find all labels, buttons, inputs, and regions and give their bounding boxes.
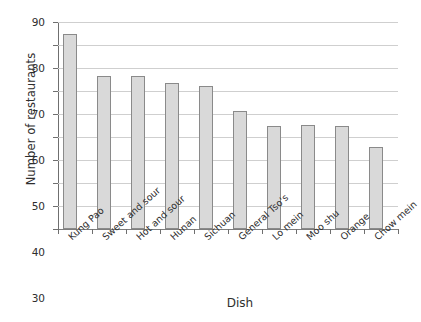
y-axis-tick-label: 80 bbox=[32, 62, 45, 74]
gridline bbox=[58, 68, 398, 69]
bar bbox=[301, 125, 315, 229]
bar bbox=[233, 111, 247, 229]
x-axis-tick bbox=[262, 229, 263, 234]
x-axis-tick bbox=[194, 229, 195, 234]
y-axis-tick: 90 bbox=[53, 22, 58, 23]
y-axis-tick-label: 70 bbox=[32, 108, 45, 120]
y-axis-tick: 10 bbox=[53, 206, 58, 207]
plot-area: 0102030405060708090 bbox=[58, 22, 398, 229]
y-axis-tick: 60 bbox=[53, 91, 58, 92]
x-axis-tick bbox=[398, 229, 399, 234]
y-axis-tick: 40 bbox=[53, 137, 58, 138]
x-axis-tick bbox=[92, 229, 93, 234]
x-axis-title: Dish bbox=[60, 296, 420, 310]
x-axis-tick bbox=[330, 229, 331, 234]
y-axis-tick: 50 bbox=[53, 114, 58, 115]
gridline bbox=[58, 22, 398, 23]
y-axis-tick: 30 bbox=[53, 160, 58, 161]
y-axis-tick-label: 30 bbox=[32, 292, 45, 304]
y-axis-tick-label: 90 bbox=[32, 16, 45, 28]
y-axis-line bbox=[58, 22, 59, 229]
x-axis-tick bbox=[296, 229, 297, 234]
y-axis-tick-label: 60 bbox=[32, 154, 45, 166]
bar bbox=[369, 147, 383, 229]
y-axis-tick-label: 40 bbox=[32, 246, 45, 258]
x-axis-tick bbox=[126, 229, 127, 234]
x-axis-tick bbox=[58, 229, 59, 234]
x-axis-tick bbox=[160, 229, 161, 234]
x-axis-tick bbox=[228, 229, 229, 234]
gridline bbox=[58, 45, 398, 46]
bar bbox=[199, 86, 213, 229]
y-axis-tick: 70 bbox=[53, 68, 58, 69]
y-axis-tick: 20 bbox=[53, 183, 58, 184]
bar bbox=[63, 34, 77, 230]
x-axis-tick bbox=[364, 229, 365, 234]
y-axis-tick: 80 bbox=[53, 45, 58, 46]
bar-chart: Number of restaurants 010203040506070809… bbox=[0, 0, 421, 322]
y-axis-tick-label: 50 bbox=[32, 200, 45, 212]
